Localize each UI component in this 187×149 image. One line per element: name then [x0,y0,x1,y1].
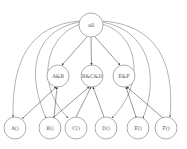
node-a[interactable]: A() [4,117,26,139]
node-label: E&F [118,73,130,79]
edge-f-to-ef [127,87,163,118]
node-label: B&C&D [82,73,102,79]
node-label: F() [162,125,169,131]
node-e[interactable]: E() [127,117,149,139]
node-b[interactable]: B() [39,117,61,139]
node-label: B() [46,125,54,131]
edge-all-to-a [13,21,80,117]
node-label: C() [72,125,80,131]
dependency-graph: all A&B B&C&D E&F A() B() C() D() [0,0,187,149]
diagram-canvas: all A&B B&C&D E&F A() B() C() D() [0,0,187,149]
node-a-and-b[interactable]: A&B [47,65,69,87]
edge-all-to-ab [62,37,87,65]
edge-b-to-ab [54,87,57,117]
nodes: all A&B B&C&D E&F A() B() C() D() [4,13,177,139]
edge-a-to-ab [23,87,56,118]
edge-d-to-bcd [93,87,104,117]
node-b-and-c-and-d[interactable]: B&C&D [81,65,103,87]
node-label: D() [102,125,110,131]
node-label: E() [134,125,142,131]
node-c[interactable]: C() [65,117,87,139]
edge-all-to-f [103,21,171,117]
node-all[interactable]: all [79,13,103,37]
node-label: A&B [51,73,64,79]
node-d[interactable]: D() [95,117,117,139]
edge-all-to-bcd [91,37,92,65]
node-label: all [88,22,95,28]
node-f[interactable]: F() [155,117,177,139]
edge-e-to-ef [126,87,136,117]
node-label: A() [10,125,19,131]
edge-all-to-ef [95,37,120,65]
node-e-and-f[interactable]: E&F [113,65,135,87]
